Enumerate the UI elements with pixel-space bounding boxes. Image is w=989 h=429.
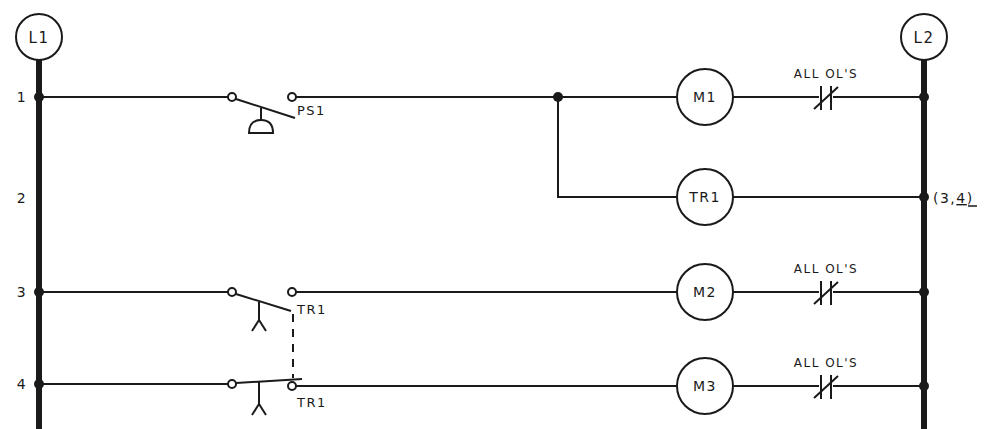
rung-number-3: 3 [17,284,27,300]
timer-contact-no-tc-icon [228,288,296,331]
cross-reference: (3,4) [933,190,974,206]
overload-label: ALL OL'S [794,262,858,276]
rung-4: TR1 M3 ALL OL'S [34,356,929,415]
ps1-label: PS1 [297,103,326,118]
junction-dot [919,287,929,297]
right-rail: L2 [901,14,947,429]
m1-label: M1 [693,89,717,105]
tr1-contact-label: TR1 [296,395,327,410]
l1-label: L1 [29,29,50,47]
branch-wire [558,97,677,197]
left-rail: L1 [16,14,62,429]
rung-number-4: 4 [17,376,27,392]
m2-label: M2 [693,284,717,300]
pushbutton-ps1-icon [228,93,296,133]
overload-label: ALL OL'S [794,67,858,81]
overload-label: ALL OL'S [794,356,858,370]
junction-dot [919,381,929,391]
ladder-diagram: L1 L2 1 2 3 4 PS1 M1 [0,0,989,429]
l2-label: L2 [914,29,935,47]
rung-2: TR1 (3,4) [558,97,977,225]
tr1-coil-label: TR1 [688,189,721,205]
timer-contact-nc-to-icon [228,379,302,415]
rung-3: TR1 M2 ALL OL'S [34,262,929,331]
m3-label: M3 [693,378,717,394]
rung-number-1: 1 [17,89,27,105]
rung-number-2: 2 [17,190,27,206]
rung-1: PS1 M1 ALL OL'S [34,67,929,133]
junction-dot [919,92,929,102]
junction-dot [919,192,929,202]
tr1-contact-label: TR1 [296,302,327,317]
